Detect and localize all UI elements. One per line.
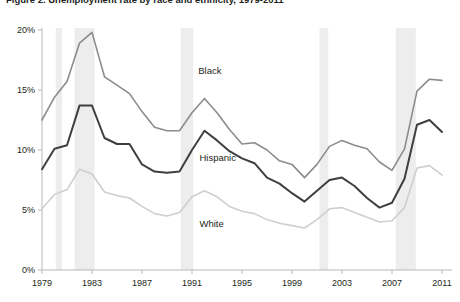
x-tick-label-1987: 1987: [132, 278, 152, 288]
recession-band-3: [181, 28, 194, 270]
x-tick-label-1999: 1999: [282, 278, 302, 288]
chart-container: Figure 2. Unemployment rate by race and …: [0, 0, 460, 302]
x-tick-label-1995: 1995: [232, 278, 252, 288]
series-annotations-group: BlackHispanicWhite: [198, 65, 236, 228]
series-lines-group: [42, 32, 442, 228]
ytick-labels-group: 0%5%10%15%20%: [17, 25, 35, 275]
unemployment-line-chart: 0%5%10%15%20% 19791983198719911995199920…: [0, 0, 460, 302]
x-tick-label-1991: 1991: [182, 278, 202, 288]
x-tick-label-2003: 2003: [332, 278, 352, 288]
x-tick-label-1979: 1979: [32, 278, 52, 288]
series-line-white: [42, 166, 442, 228]
y-tick-label-15%: 15%: [17, 85, 35, 95]
axes-group: [38, 28, 452, 274]
series-label-white: White: [200, 218, 224, 229]
series-label-hispanic: Hispanic: [200, 152, 237, 163]
x-tick-label-2007: 2007: [382, 278, 402, 288]
xtick-labels-group: 197919831987199119951999200320072011: [32, 278, 452, 288]
y-tick-label-5%: 5%: [22, 205, 35, 215]
recession-band-2: [75, 28, 95, 270]
y-tick-label-0%: 0%: [22, 265, 35, 275]
x-tick-label-2011: 2011: [432, 278, 451, 288]
y-tick-label-20%: 20%: [17, 25, 35, 35]
y-tick-label-10%: 10%: [17, 145, 35, 155]
recession-band-5: [396, 28, 416, 270]
series-label-black: Black: [198, 65, 221, 76]
recession-bands-group: [56, 28, 416, 270]
series-line-hispanic: [42, 106, 442, 208]
x-tick-label-1983: 1983: [82, 278, 102, 288]
series-line-black: [42, 32, 442, 177]
